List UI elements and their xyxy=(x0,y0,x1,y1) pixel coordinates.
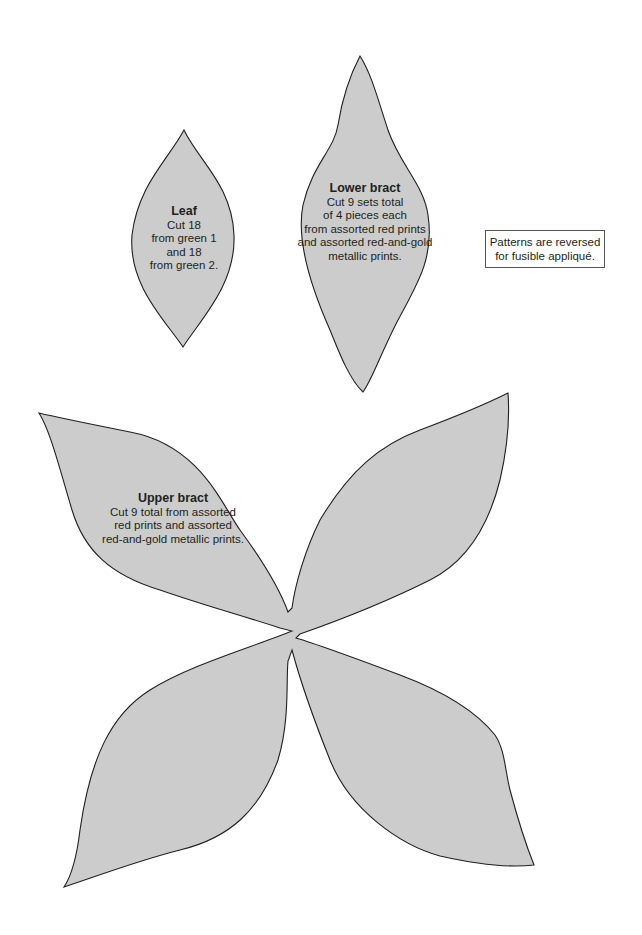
leaf-label: Leaf Cut 18 from green 1 and 18 from gre… xyxy=(128,205,240,273)
note-line: Patterns are reversed xyxy=(486,235,604,249)
lower-bract-line: metallic prints. xyxy=(295,250,435,264)
leaf-line: Cut 18 xyxy=(128,219,240,233)
reversed-patterns-note: Patterns are reversed for fusible appliq… xyxy=(485,230,605,268)
pattern-artwork xyxy=(0,0,642,935)
lower-bract-line: of 4 pieces each xyxy=(295,209,435,223)
leaf-title: Leaf xyxy=(128,205,240,219)
upper-bract-line: red prints and assorted xyxy=(93,519,253,533)
leaf-line: from green 2. xyxy=(128,259,240,273)
lower-bract-line: from assorted red prints xyxy=(295,223,435,237)
upper-bract-title: Upper bract xyxy=(93,492,253,506)
leaf-line: and 18 xyxy=(128,246,240,260)
leaf-line: from green 1 xyxy=(128,232,240,246)
upper-bract-shape xyxy=(39,393,534,887)
lower-bract-title: Lower bract xyxy=(295,182,435,196)
lower-bract-line: and assorted red-and-gold xyxy=(295,236,435,250)
upper-bract-label: Upper bract Cut 9 total from assorted re… xyxy=(93,492,253,546)
lower-bract-label: Lower bract Cut 9 sets total of 4 pieces… xyxy=(295,182,435,263)
upper-bract-line: red-and-gold metallic prints. xyxy=(93,533,253,547)
upper-bract-line: Cut 9 total from assorted xyxy=(93,506,253,520)
note-line: for fusible appliqué. xyxy=(486,249,604,263)
lower-bract-line: Cut 9 sets total xyxy=(295,196,435,210)
